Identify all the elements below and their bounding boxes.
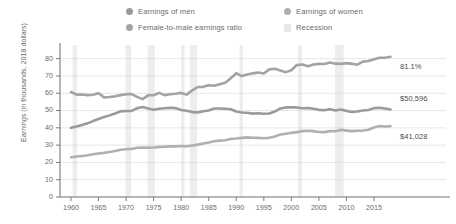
x-tick-label: 1970 <box>118 203 134 212</box>
x-tick-label: 2000 <box>283 203 299 212</box>
y-tick-label: 20 <box>45 157 53 166</box>
recession-band <box>181 45 184 197</box>
annotation-women-value: $41,028 <box>400 132 427 141</box>
y-tick-label: 70 <box>45 71 53 80</box>
y-tick-label: 40 <box>45 123 53 132</box>
recession-band <box>335 45 344 197</box>
x-tick-label: 1960 <box>63 203 79 212</box>
annotation-ratio-value: 81.1% <box>400 62 422 71</box>
earnings-chart: Earnings of men Earnings of women Female… <box>0 0 456 224</box>
y-tick-label: 0 <box>49 192 53 201</box>
x-tick-label: 2010 <box>338 203 354 212</box>
axis-lines <box>60 43 450 197</box>
x-tick-label: 1995 <box>256 203 272 212</box>
y-tick-label: 50 <box>45 105 53 114</box>
grid-lines <box>60 59 446 197</box>
x-tick-label: 1980 <box>173 203 189 212</box>
recession-bands <box>73 45 344 197</box>
x-axis-ticks: 1960196519701975198019851990199520002005… <box>63 197 382 212</box>
recession-band <box>73 45 77 197</box>
y-tick-label: 80 <box>45 54 53 63</box>
y-tick-label: 60 <box>45 88 53 97</box>
x-tick-label: 1965 <box>91 203 107 212</box>
y-tick-label: 30 <box>45 140 53 149</box>
x-tick-label: 2005 <box>311 203 327 212</box>
recession-band <box>148 45 155 197</box>
recession-band <box>298 45 302 197</box>
chart-svg: 01020304050607080 1960196519701975198019… <box>0 0 456 224</box>
plot-area: 01020304050607080 1960196519701975198019… <box>0 0 456 224</box>
y-tick-label: 10 <box>45 175 53 184</box>
annotation-men-value: $50,596 <box>400 94 427 103</box>
recession-band <box>190 45 197 197</box>
recession-band <box>240 45 243 197</box>
recession-band <box>126 45 132 197</box>
x-tick-label: 2015 <box>366 203 382 212</box>
x-tick-label: 1990 <box>228 203 244 212</box>
series-end-labels: 81.1%$50,596$41,028 <box>400 62 427 141</box>
x-tick-label: 1975 <box>146 203 162 212</box>
y-axis-ticks: 01020304050607080 <box>45 54 60 201</box>
x-tick-label: 1985 <box>201 203 217 212</box>
